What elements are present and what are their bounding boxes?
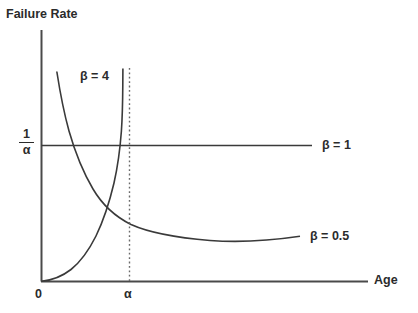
series-curve-beta-05 <box>57 72 300 242</box>
axes-group <box>41 30 368 282</box>
series-curve-beta-4 <box>42 69 123 282</box>
fraction-numerator: 1 <box>18 128 35 142</box>
series-label-beta-4: β = 4 <box>80 70 109 83</box>
x-axis-tick-alpha: α <box>124 288 132 301</box>
x-axis-tick-zero: 0 <box>35 288 42 301</box>
weibull-failure-rate-chart: Failure Rate Age 0 α 1 α β = 4 β = 1 β =… <box>0 0 418 313</box>
y-axis-tick-one-over-alpha: 1 α <box>18 128 35 156</box>
series-label-beta-1: β = 1 <box>322 139 351 152</box>
chart-canvas <box>0 0 418 313</box>
y-axis-title: Failure Rate <box>6 8 78 21</box>
fraction-denominator: α <box>18 143 35 157</box>
x-axis-title: Age <box>374 274 398 287</box>
series-label-beta-05: β = 0.5 <box>310 230 349 243</box>
series-group <box>42 69 313 282</box>
